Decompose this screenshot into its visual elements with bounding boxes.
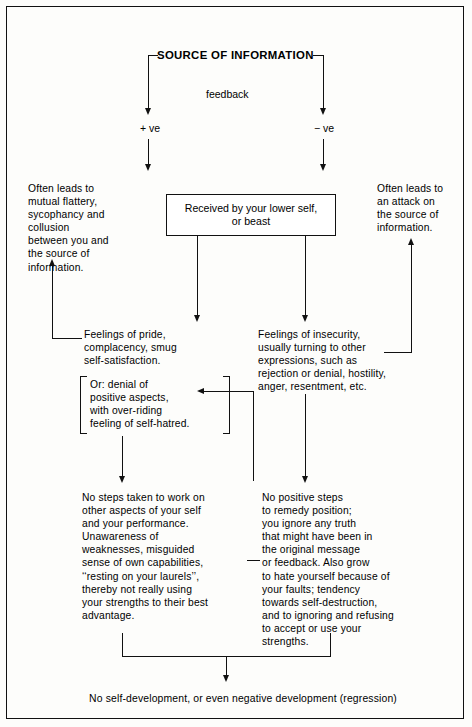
box-to-insecurity-stem (305, 236, 306, 317)
right-mid-insecurity-text: Feelings of insecurity, usually turning … (258, 328, 423, 393)
main-box-received-by-lower-self: Received by your lower self, or beast (166, 194, 336, 236)
title-right-stem (323, 55, 324, 110)
left-feedback-horizontal (52, 338, 82, 339)
right-bottom-left-nub (247, 560, 260, 561)
denial-bracket-left (80, 376, 87, 434)
left-mid-denial-text: Or: denial of positive aspects, with ove… (90, 378, 230, 430)
denial-inbound-stem (253, 391, 254, 481)
denial-inbound-arrowhead (197, 388, 204, 394)
box-to-pride-arrowhead (194, 315, 200, 322)
left-feedback-up-arrowhead (49, 259, 55, 266)
minus-to-box-arrowhead (320, 164, 326, 171)
page-title: SOURCE OF INFORMATION (157, 49, 314, 61)
left-mid-pride-text: Feelings of pride, complacency, smug sel… (84, 328, 234, 367)
bottom-result-text: No self-development, or even negative de… (63, 692, 423, 705)
denial-to-nosteps-arrowhead (119, 476, 125, 483)
title-left-stem (148, 55, 149, 110)
plus-to-box-arrowhead (145, 164, 151, 171)
denial-to-nosteps-stem (122, 436, 123, 478)
box-to-pride-stem (197, 236, 198, 317)
insecurity-to-nopositive-arrowhead (302, 476, 308, 483)
plus-branch-arrowhead (145, 108, 151, 115)
right-bottom-down-stem (330, 633, 331, 657)
title-left-nub (148, 55, 158, 56)
left-bottom-text: No steps taken to work on other aspects … (82, 491, 247, 622)
right-top-text: Often leads to an attack on the source o… (377, 182, 467, 234)
left-top-text: Often leads to mutual flattery, sycophan… (28, 182, 148, 274)
left-feedback-up-stem (52, 266, 53, 339)
right-feedback-up-arrowhead (408, 238, 414, 245)
feedback-label: feedback (206, 88, 249, 100)
box-to-insecurity-arrowhead (302, 315, 308, 322)
right-bottom-text: No positive steps to remedy position; yo… (262, 491, 422, 648)
insecurity-to-nopositive-stem (305, 394, 306, 478)
flowchart-page: SOURCE OF INFORMATION + ve − ve feedback… (0, 0, 472, 727)
minus-branch-arrowhead (320, 108, 326, 115)
bottom-result-arrowhead (223, 675, 229, 682)
denial-inbound-horizontal (204, 391, 254, 392)
positive-feedback-label: + ve (140, 122, 160, 134)
negative-feedback-label: − ve (314, 122, 334, 134)
left-bottom-down-stem (122, 633, 123, 657)
